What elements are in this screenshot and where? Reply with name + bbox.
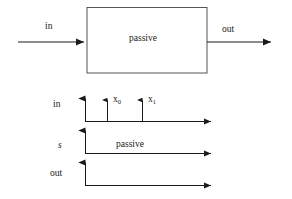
figure-canvas: in passive out in s out x0 x1 passive xyxy=(0,0,292,199)
tick-label-x1: x1 xyxy=(148,95,156,105)
timeline-row-out xyxy=(85,163,211,187)
timeline-s-label: s xyxy=(58,141,62,151)
timeline-out-label: out xyxy=(50,169,62,179)
tick-label-x0-subscript: 0 xyxy=(118,98,121,105)
block-output-label: out xyxy=(222,25,234,35)
timeline-row-s xyxy=(85,131,211,155)
tick-label-x0: x0 xyxy=(113,95,121,105)
diagram-vector-layer xyxy=(0,0,292,199)
passive-block-label: passive xyxy=(129,34,157,44)
timeline-s-annotation: passive xyxy=(116,140,144,150)
tick-label-x1-subscript: 1 xyxy=(153,98,156,105)
timeline-in-label: in xyxy=(53,100,60,110)
block-input-label: in xyxy=(45,22,52,32)
